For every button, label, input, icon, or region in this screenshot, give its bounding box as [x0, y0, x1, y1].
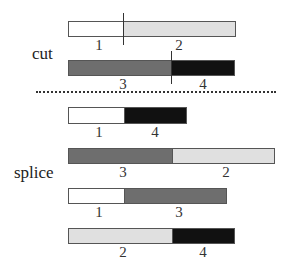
- segment-label-1: 1: [95, 205, 103, 220]
- segment-4: [171, 60, 235, 76]
- segment-4: [124, 107, 187, 124]
- segment-label-4: 4: [199, 77, 207, 92]
- cut-group-label: cut: [32, 45, 53, 62]
- segment-3: [68, 60, 172, 76]
- splice-group-label: splice: [14, 164, 54, 181]
- segment-label-2: 2: [119, 245, 127, 260]
- segment-label-3: 3: [175, 205, 183, 220]
- segment-label-4: 4: [151, 125, 159, 140]
- segment-label-4: 4: [199, 245, 207, 260]
- segment-2: [123, 21, 236, 37]
- segment-label-2: 2: [175, 38, 183, 53]
- segment-2: [172, 148, 275, 164]
- cut-marker-line: [123, 13, 124, 45]
- segment-label-2: 2: [222, 165, 230, 180]
- segment-1: [68, 21, 124, 37]
- segment-1: [68, 188, 125, 204]
- segment-4: [172, 228, 235, 244]
- segment-label-3: 3: [119, 77, 127, 92]
- segment-label-1: 1: [95, 125, 103, 140]
- segment-3: [124, 188, 227, 204]
- segment-3: [68, 148, 173, 164]
- segment-1: [68, 107, 125, 124]
- segment-label-3: 3: [119, 165, 127, 180]
- dotted-divider: [36, 91, 276, 93]
- segment-label-1: 1: [95, 38, 103, 53]
- segment-2: [68, 228, 173, 244]
- cut-marker-line: [171, 51, 172, 84]
